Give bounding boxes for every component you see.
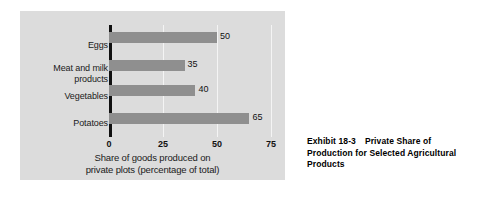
- bar-eggs: [109, 32, 217, 43]
- bar-vegetables: [109, 85, 195, 96]
- category-label-potatoes: Potatoes: [20, 118, 108, 129]
- category-label-eggs: Eggs: [20, 40, 108, 51]
- exhibit-title-line2: Production for Selected Agricultural: [307, 148, 456, 158]
- exhibit-title-line1: Private Share of: [365, 136, 431, 146]
- plot-area: 50 35 40 65: [109, 25, 285, 137]
- x-tick-75: 75: [266, 139, 276, 149]
- category-label-meat-and-milk-products: Meat and milk products: [20, 63, 108, 84]
- exhibit-title-line3: Products: [307, 159, 345, 169]
- x-tick-25: 25: [158, 139, 168, 149]
- x-axis-tick-labels: 0 25 50 75: [109, 139, 294, 151]
- bar-potatoes: [109, 113, 249, 124]
- bar-value-meat-and-milk-products: 35: [188, 59, 198, 69]
- chart-panel: Eggs Meat and milk products Vegetables P…: [20, 11, 285, 180]
- x-axis-title-line1: Share of goods produced on: [95, 152, 211, 163]
- bar-meat-and-milk-products: [109, 60, 185, 71]
- category-label-text: Vegetables: [64, 91, 108, 101]
- x-tick-0: 0: [106, 139, 111, 149]
- category-label-text-line2: products: [74, 74, 108, 84]
- category-label-text: Potatoes: [73, 118, 108, 128]
- bar-value-vegetables: 40: [198, 84, 208, 94]
- exhibit-caption: Exhibit 18-3Private Share of Production …: [307, 136, 487, 171]
- x-axis-title-line2: private plots (percentage of total): [86, 164, 220, 175]
- bar-value-potatoes: 65: [252, 112, 262, 122]
- gridline-75: [271, 25, 272, 137]
- category-label-text: Eggs: [88, 40, 108, 50]
- x-tick-50: 50: [212, 139, 222, 149]
- category-axis-labels: Eggs Meat and milk products Vegetables P…: [20, 25, 108, 140]
- category-label-text-line1: Meat and milk: [53, 63, 108, 73]
- bar-value-eggs: 50: [220, 31, 230, 41]
- category-label-vegetables: Vegetables: [20, 91, 108, 102]
- exhibit-number: Exhibit 18-3: [307, 136, 356, 146]
- x-axis-title: Share of goods produced on private plots…: [20, 152, 285, 175]
